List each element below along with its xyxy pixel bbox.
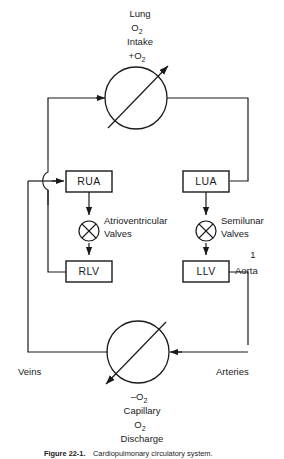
pulmonary-artery-line — [48, 98, 99, 160]
valve-atrioventricular[interactable] — [79, 221, 99, 241]
aorta-label: Aorta — [235, 265, 258, 276]
capillary-node — [106, 321, 169, 384]
lung-label-line1: Lung — [129, 8, 150, 19]
lung-node — [105, 66, 168, 129]
box-llv[interactable]: LLV — [183, 261, 229, 282]
figure-caption-number: Figure 22-1. — [44, 449, 85, 458]
lua-box-label: LUA — [195, 175, 217, 187]
pulmonary-artery-path — [48, 98, 105, 160]
sl-valve-label-line2: Valves — [221, 228, 249, 239]
capillary-label-line1: –O2 — [131, 391, 148, 404]
pulmonary-vein-line — [167, 98, 248, 181]
sl-valve-label-group: Semilunar Valves — [221, 215, 264, 239]
capillary-label-line2: Capillary — [124, 405, 161, 416]
rlv-to-lung-line — [48, 190, 66, 272]
wire-hop-bump — [43, 160, 48, 205]
veins-label: Veins — [18, 366, 41, 377]
box-rua[interactable]: RUA — [66, 171, 112, 192]
cardiopulmonary-circulation-diagram: Lung O2 Intake +O2 — [0, 0, 284, 459]
wire-crossing-hop — [43, 160, 48, 205]
lung-label-line2: O2 — [131, 22, 142, 35]
rlv-to-lung-path — [48, 190, 66, 272]
sl-valve-label-line1: Semilunar — [221, 215, 264, 226]
box-lua[interactable]: LUA — [183, 171, 229, 192]
av-valve-label-line1: Atrioventricular — [104, 215, 167, 226]
figure-caption-text: Cardiopulmonary circulatory system. — [93, 449, 213, 458]
lung-label-line4: +O2 — [129, 50, 146, 63]
capillary-label-line4: Discharge — [121, 433, 164, 444]
capillary-label-group: –O2 Capillary O2 Discharge — [121, 391, 164, 444]
llv-box-label: LLV — [196, 265, 215, 277]
lung-label-group: Lung O2 Intake +O2 — [127, 8, 153, 63]
valve-semilunar[interactable] — [196, 221, 216, 241]
lung-label-line3: Intake — [127, 36, 153, 47]
av-valve-label-group: Atrioventricular Valves — [104, 215, 167, 239]
aorta-marker-label: 1 — [250, 249, 255, 260]
arteries-label: Arteries — [216, 366, 249, 377]
box-rlv[interactable]: RLV — [66, 261, 112, 282]
figure-caption: Figure 22-1. Cardiopulmonary circulatory… — [44, 449, 213, 458]
aorta-path: 1 Aorta — [229, 249, 258, 345]
capillary-label-line3: O2 — [134, 419, 145, 432]
rua-box-label: RUA — [77, 175, 100, 187]
aorta-line — [229, 272, 248, 345]
av-valve-label-line2: Valves — [104, 228, 132, 239]
figure-container: Lung O2 Intake +O2 — [0, 0, 284, 459]
rlv-box-label: RLV — [79, 265, 100, 277]
pulmonary-vein-path — [167, 98, 248, 181]
